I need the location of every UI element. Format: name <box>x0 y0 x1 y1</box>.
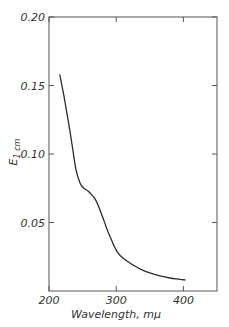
y-axis-label: E1 cm <box>7 138 22 165</box>
y-tick-label: 0.20 <box>21 11 46 24</box>
plot-frame <box>49 17 217 291</box>
y-tick-label: 0.10 <box>21 148 46 161</box>
y-tick-label: 0.15 <box>21 80 46 93</box>
data-line <box>60 75 186 281</box>
plot-border <box>49 17 217 291</box>
x-axis-label: Wavelength, mμ <box>71 308 161 321</box>
svg-text:E1 cm: E1 cm <box>7 138 22 165</box>
chart: 200300400 0.050.100.150.20 Wavelength, m… <box>0 0 229 327</box>
y-axis-ticks: 0.050.100.150.20 <box>21 11 218 230</box>
x-tick-label: 300 <box>106 294 127 307</box>
x-tick-label: 200 <box>39 294 60 307</box>
x-tick-label: 400 <box>173 294 194 307</box>
y-tick-label: 0.05 <box>21 217 46 230</box>
x-axis-ticks: 200300400 <box>39 17 194 307</box>
